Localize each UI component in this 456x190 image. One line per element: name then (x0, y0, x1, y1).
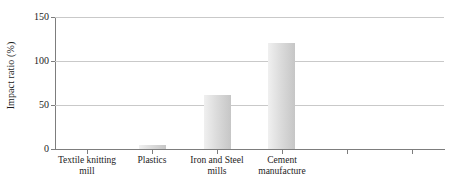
x-axis-category-label: Cement manufacture (246, 155, 318, 177)
y-axis-tick-mark (51, 17, 55, 18)
x-axis-tick-mark (152, 150, 153, 154)
y-axis-title-text: Impact ratio (%) (6, 41, 17, 109)
y-axis-tick-labels: 050100150 (22, 0, 52, 160)
y-axis-tick-label: 150 (34, 12, 49, 22)
x-axis-tick-mark (412, 150, 413, 154)
y-axis-tick-label: 100 (34, 56, 49, 66)
bar (204, 95, 231, 149)
y-axis-title: Impact ratio (%) (0, 0, 22, 150)
bar-chart: Impact ratio (%) 050100150 Textile knitt… (0, 0, 456, 190)
y-axis-tick-mark (51, 61, 55, 62)
x-axis-category-label: Plastics (116, 155, 188, 166)
x-axis-line (55, 149, 445, 150)
x-axis-category-label: Textile knitting mill (51, 155, 123, 177)
bar (139, 145, 166, 149)
gridline (55, 105, 444, 106)
x-axis-category-label: Iron and Steel mills (181, 155, 253, 177)
x-axis-tick-mark (87, 150, 88, 154)
x-axis-tick-mark (347, 150, 348, 154)
y-axis-tick-mark (51, 149, 55, 150)
x-axis-tick-mark (217, 150, 218, 154)
x-axis-tick-mark (282, 150, 283, 154)
y-axis-tick-label: 50 (39, 100, 49, 110)
bar (268, 43, 295, 149)
plot-area (55, 17, 444, 149)
y-axis-tick-mark (51, 105, 55, 106)
gridline (55, 61, 444, 62)
gridline (55, 17, 444, 18)
y-axis-tick-label: 0 (44, 144, 49, 154)
